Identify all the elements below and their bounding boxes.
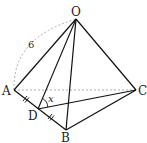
angle-arc-x [43,99,48,108]
label-D: D [28,109,38,123]
edge-BC [66,90,136,130]
edge-AB [14,90,66,130]
segment-OD [38,19,76,109]
label-length: 6 [28,39,34,50]
label-B: B [61,131,70,143]
label-A: A [1,84,11,98]
label-C: C [138,84,147,98]
edge-OB [66,19,76,130]
edge-OA [14,19,76,90]
tetrahedron-diagram: O A B C D 6 x [0,0,147,143]
edge-OC [76,19,136,90]
label-angle-x: x [48,93,54,104]
label-O: O [71,5,81,19]
